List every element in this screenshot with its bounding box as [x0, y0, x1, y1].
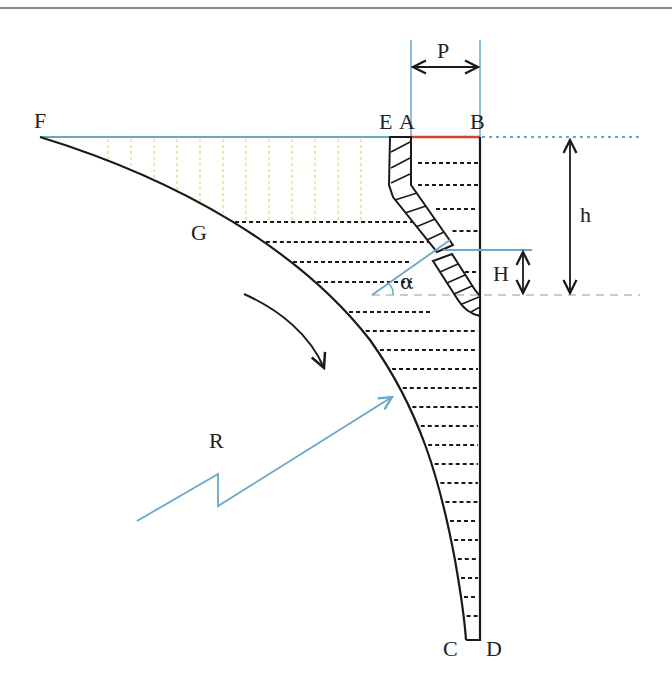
label-E: E [379, 109, 392, 134]
label-p: P [437, 38, 449, 63]
label-H: H [493, 261, 509, 286]
label-A: A [399, 109, 415, 134]
curve-fgc [40, 137, 466, 640]
dimension-h: h [570, 140, 591, 293]
diagram-canvas: P α H [0, 0, 672, 686]
label-G: G [191, 220, 207, 245]
hatched-block-upper [389, 137, 453, 252]
label-alpha: α [400, 270, 414, 294]
label-D: D [486, 636, 502, 661]
radius-r: R [137, 397, 392, 521]
label-B: B [470, 109, 485, 134]
label-h: h [580, 202, 591, 227]
hatched-block-lower [433, 254, 480, 316]
dimension-H: H [493, 252, 523, 293]
flow-direction-arrow [244, 294, 324, 368]
label-C: C [443, 636, 458, 661]
label-F: F [34, 108, 46, 133]
label-R: R [209, 428, 224, 453]
yellow-hatch-region [108, 139, 361, 220]
